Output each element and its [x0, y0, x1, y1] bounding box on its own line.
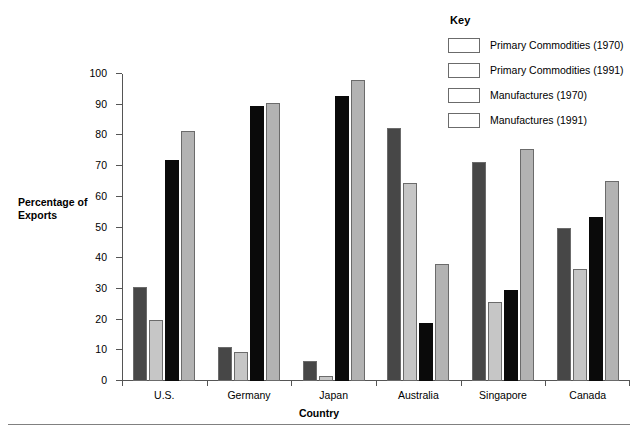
bar	[234, 352, 248, 381]
y-axis-tick-label: 0	[81, 374, 107, 386]
x-axis-title: Country	[0, 407, 638, 419]
bar	[133, 287, 147, 381]
bar-group: Australia	[376, 74, 461, 381]
y-axis-tick-label: 50	[81, 221, 107, 233]
y-axis-tick-label: 20	[81, 313, 107, 325]
bar	[557, 228, 571, 382]
bar	[435, 264, 449, 381]
y-axis-title: Percentage of Exports	[18, 196, 88, 222]
bar	[319, 376, 333, 381]
x-axis-tick	[629, 381, 630, 386]
x-axis-category-label: Canada	[569, 389, 606, 401]
bar-group: Singapore	[461, 74, 546, 381]
x-axis-category-label: Singapore	[479, 389, 527, 401]
bar	[266, 103, 280, 381]
bar-chart-figure: Key Primary Commodities (1970) Primary C…	[0, 0, 638, 434]
x-axis-category-label: U.S.	[154, 389, 174, 401]
footer-divider	[8, 424, 630, 425]
bar	[165, 160, 179, 381]
bar-group: Canada	[545, 74, 630, 381]
bar	[218, 347, 232, 381]
x-axis-category-label: Japan	[319, 389, 348, 401]
bar	[472, 162, 486, 382]
y-axis-tick-label: 40	[81, 251, 107, 263]
x-axis-tick	[122, 381, 123, 386]
bar	[605, 181, 619, 381]
x-axis-tick	[376, 381, 377, 386]
bars-container: U.S.GermanyJapanAustraliaSingaporeCanada	[122, 74, 630, 381]
bar	[520, 149, 534, 381]
y-axis-tick-label: 80	[81, 128, 107, 140]
bar-group: Japan	[291, 74, 376, 381]
bar	[573, 269, 587, 381]
bar	[303, 361, 317, 381]
bar	[488, 302, 502, 381]
y-axis-tick-label: 30	[81, 282, 107, 294]
legend-item-primary-commodities-1970: Primary Commodities (1970)	[448, 35, 638, 55]
x-axis-tick	[207, 381, 208, 386]
x-axis-tick	[545, 381, 546, 386]
legend-item-label: Primary Commodities (1970)	[490, 39, 624, 51]
x-axis-tick	[291, 381, 292, 386]
bar	[149, 320, 163, 381]
y-axis-tick-label: 10	[81, 343, 107, 355]
legend-title: Key	[450, 14, 638, 26]
bar	[403, 183, 417, 381]
y-axis-tick-label: 90	[81, 98, 107, 110]
plot-area: 0102030405060708090100 U.S.GermanyJapanA…	[122, 74, 630, 381]
bar-group: Germany	[207, 74, 292, 381]
legend-swatch-icon	[448, 38, 480, 53]
bar	[351, 80, 365, 381]
y-axis-tick-label: 60	[81, 190, 107, 202]
y-axis-tick-label: 100	[81, 67, 107, 79]
x-axis-category-label: Australia	[398, 389, 439, 401]
bar	[181, 131, 195, 381]
x-axis-category-label: Germany	[227, 389, 270, 401]
y-axis-tick-label: 70	[81, 159, 107, 171]
bar	[419, 323, 433, 381]
bar	[250, 106, 264, 381]
bar	[335, 96, 349, 382]
bar	[387, 128, 401, 381]
bar	[504, 290, 518, 381]
bar	[589, 217, 603, 381]
x-axis-tick	[461, 381, 462, 386]
bar-group: U.S.	[122, 74, 207, 381]
